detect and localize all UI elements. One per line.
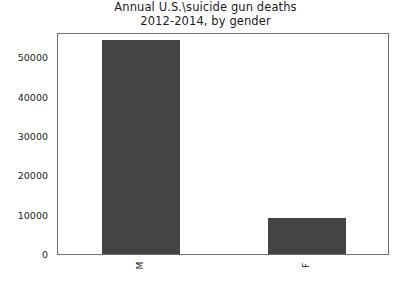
plot-area — [57, 33, 389, 255]
chart-title-line-1: Annual U.S.\suicide gun deaths — [0, 1, 411, 15]
plot-inner — [58, 34, 388, 254]
x-axis-tick-label: M — [136, 262, 145, 270]
y-axis-tick-label: 30000 — [0, 132, 52, 142]
y-axis-tick-label: 40000 — [0, 93, 52, 103]
bar-m — [102, 40, 180, 254]
y-axis-tick-label: 10000 — [0, 211, 52, 221]
x-axis: MF — [57, 255, 389, 287]
y-axis-tick-label: 20000 — [0, 171, 52, 181]
chart-title: Annual U.S.\suicide gun deaths 2012-2014… — [0, 1, 411, 28]
y-axis: 01000020000300004000050000 — [0, 33, 52, 255]
x-axis-tick-label: F — [302, 263, 311, 268]
chart-title-line-2: 2012-2014, by gender — [0, 15, 411, 29]
bar-f — [268, 218, 346, 254]
bar-chart-figure: Annual U.S.\suicide gun deaths 2012-2014… — [0, 0, 411, 287]
y-axis-tick-label: 0 — [0, 250, 52, 260]
y-axis-tick-label: 50000 — [0, 53, 52, 63]
